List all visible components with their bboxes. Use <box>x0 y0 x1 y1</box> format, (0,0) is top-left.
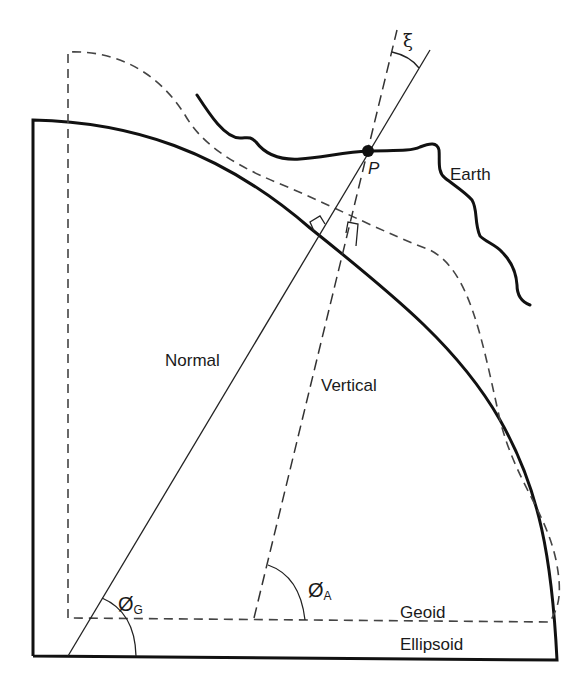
geoid-outline <box>68 52 559 622</box>
xi-label: ξ <box>403 32 413 50</box>
earth-label: Earth <box>450 166 491 183</box>
normal-line <box>68 50 430 656</box>
point-p-dot <box>362 145 374 157</box>
point-p-label: P <box>368 160 379 177</box>
vertical-line <box>254 30 397 618</box>
phi-a-angle-arc <box>268 565 305 620</box>
geodesy-diagram <box>0 0 588 686</box>
ellipsoid-label: Ellipsoid <box>400 636 463 653</box>
geoid-label: Geoid <box>400 604 445 621</box>
xi-angle-arc <box>392 52 419 68</box>
vertical-label: Vertical <box>321 377 377 394</box>
phi-a-label: ØA <box>308 580 332 602</box>
normal-label: Normal <box>165 352 220 369</box>
ellipsoid-outline <box>33 120 557 660</box>
phi-g-label: ØG <box>118 594 143 616</box>
